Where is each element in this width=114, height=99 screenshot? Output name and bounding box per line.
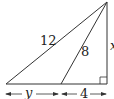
cevian-label: 8 [81,44,89,59]
cevian-line [61,2,107,84]
four-segment-label: 4 [80,86,88,99]
height-label: x [110,38,114,53]
right-angle-marker [100,77,107,84]
y-segment-label: y [24,85,33,99]
triangle-diagram: 12 8 x y 4 [0,0,114,99]
hypotenuse-label: 12 [40,33,57,48]
